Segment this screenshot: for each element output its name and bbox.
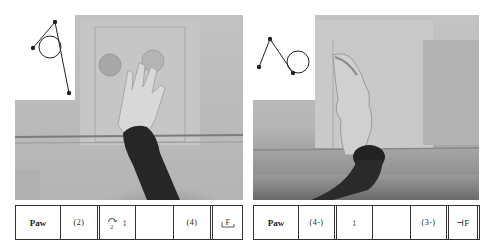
notation-blank-cell [136, 206, 174, 239]
vertical-arrow-icon: ↕ [122, 217, 128, 228]
body-part-label: Paw [16, 206, 61, 239]
svg-text:F: F [225, 218, 230, 227]
figure-right: Paw (4-) ↕ (3-) ⊣F [246, 0, 492, 246]
turn-symbol-icon: 2 [107, 217, 117, 229]
notation-symbol-cell: 2 ↕ [100, 206, 136, 239]
notation-table-right: Paw (4-) ↕ (3-) ⊣F [253, 205, 480, 240]
vertical-arrow-icon: ↕ [352, 217, 358, 228]
diagram-left-notch [15, 15, 75, 100]
notation-symbol-cell: ↕ [337, 206, 373, 239]
figure-left: Paw (2) 2 ↕ (4) F [0, 0, 246, 246]
notation-value: (3-) [411, 206, 449, 239]
notation-value: (4-) [299, 206, 337, 239]
notation-blank-cell [373, 206, 411, 239]
svg-text:2: 2 [111, 223, 115, 229]
notation-table-left: Paw (2) 2 ↕ (4) F [15, 205, 243, 240]
notation-symbol-cell: F [213, 206, 242, 239]
body-part-label: Paw [254, 206, 299, 239]
notation-symbol-cell: ⊣F [449, 206, 477, 239]
notation-value: (2) [61, 206, 100, 239]
zigzag-stick-figure-icon [253, 15, 315, 100]
tack-F-icon: ⊣F [456, 218, 470, 228]
diagram-right-notch [253, 15, 315, 100]
floor-bracket-F-icon: F [221, 217, 235, 229]
stick-figure-diagram-icon [15, 15, 75, 100]
notation-value: (4) [174, 206, 213, 239]
turn-and-vertical-arrow-icon: 2 ↕ [107, 217, 128, 229]
